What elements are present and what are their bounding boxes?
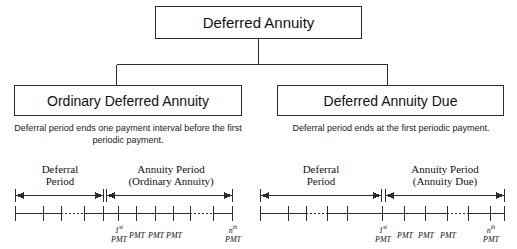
pmt-label-ordinary-nth-ordinal: nth [219, 223, 247, 235]
node-deferred-annuity-label: Deferred Annuity [203, 14, 315, 31]
pmt-due-ordinal-sup-0: st [383, 224, 387, 230]
node-deferred-annuity-due-label: Deferred Annuity Due [324, 93, 458, 109]
heading-annuity-period-ordinary-line2: (Ordinary Annuity) [115, 175, 227, 187]
pmt-label-ordinary-4: PMT [161, 231, 187, 240]
node-ordinary-deferred-annuity-label: Ordinary Deferred Annuity [47, 93, 209, 109]
connector-tree [117, 39, 388, 85]
caption-ordinary-deferred-annuity: Deferral period ends one payment interva… [10, 122, 246, 146]
pmt-due-ordinal-sup-4: th [491, 224, 496, 230]
caption-deferred-annuity-due: Deferral period ends at the first period… [277, 122, 505, 134]
deferral-span-arrow-due [261, 189, 382, 202]
pmt-ordinal-sup-0: st [119, 224, 123, 230]
pmt-label-ordinary-nth: nth PMT [219, 223, 247, 244]
annuity-span-arrow-due [386, 189, 505, 202]
pmt-label-due-4: PMT [435, 231, 461, 240]
deferral-span-arrow-ordinary [16, 189, 104, 202]
heading-deferral-period-due-line2: Period [285, 175, 357, 187]
annuity-span-arrow-ordinary [107, 189, 233, 202]
heading-annuity-period-ordinary: Annuity Period (Ordinary Annuity) [115, 163, 227, 187]
timeline-ordinary [15, 189, 233, 221]
heading-deferral-period-ordinary-line2: Period [24, 175, 96, 187]
pmt-label-due-nth-word: PMT [477, 235, 505, 244]
timeline-due [260, 189, 505, 221]
heading-annuity-period-due: Annuity Period (Annuity Due) [390, 163, 500, 187]
heading-deferral-period-due: Deferral Period [285, 163, 357, 187]
heading-deferral-period-ordinary: Deferral Period [24, 163, 96, 187]
pmt-label-due-nth-ordinal: nth [477, 223, 505, 235]
heading-deferral-period-due-line1: Deferral [285, 163, 357, 175]
pmt-label-due-nth: nth PMT [477, 223, 505, 244]
pmt-ordinal-sup-4: th [233, 224, 238, 230]
node-deferred-annuity[interactable]: Deferred Annuity [155, 6, 362, 39]
heading-annuity-period-ordinary-line1: Annuity Period [115, 163, 227, 175]
heading-annuity-period-due-line1: Annuity Period [390, 163, 500, 175]
node-deferred-annuity-due[interactable]: Deferred Annuity Due [277, 85, 504, 116]
pmt-label-ordinary-nth-word: PMT [219, 235, 247, 244]
heading-deferral-period-ordinary-line1: Deferral [24, 163, 96, 175]
heading-annuity-period-due-line2: (Annuity Due) [390, 175, 500, 187]
node-ordinary-deferred-annuity[interactable]: Ordinary Deferred Annuity [14, 85, 242, 116]
